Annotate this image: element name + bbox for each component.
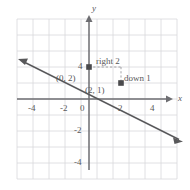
x-tick-label-neg2: -2: [60, 104, 68, 113]
x-axis-arrow: [166, 96, 173, 103]
x-tick-label-2: 2: [118, 104, 123, 113]
point-label-2-1: (2, 1): [85, 86, 105, 95]
x-tick-label-neg4: -4: [28, 104, 36, 113]
annotation-right-2: right 2: [96, 57, 120, 66]
annotation-down-1: down 1: [124, 74, 151, 83]
graph-canvas: [0, 0, 190, 190]
coordinate-plane-figure: x y -4 -2 0 2 4 4 -2 -4 (0, 2) (2, 1) ri…: [0, 0, 190, 190]
x-tick-label-zero: 0: [80, 104, 85, 113]
y-axis-arrow: [86, 15, 93, 22]
x-tick-label-4: 4: [150, 104, 155, 113]
point-marker-2-1: [118, 80, 124, 86]
x-axis-label: x: [178, 94, 182, 103]
point-marker-0-2: [86, 64, 92, 70]
y-tick-label-neg4: -4: [74, 158, 82, 167]
y-tick-label-neg2: -2: [74, 126, 82, 135]
slope-step-dashes: [89, 67, 121, 83]
y-tick-label-4: 4: [78, 62, 83, 71]
y-axis-label: y: [92, 4, 96, 13]
point-label-0-2: (0, 2): [56, 74, 76, 83]
